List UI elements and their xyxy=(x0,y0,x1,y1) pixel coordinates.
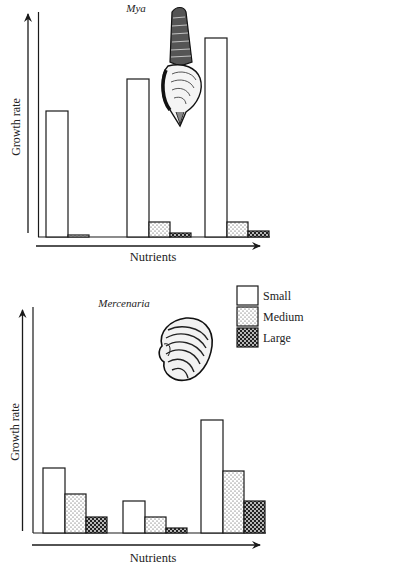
legend-label-small: Small xyxy=(263,289,292,303)
legend-item-large: Large xyxy=(237,328,291,347)
bar-large xyxy=(166,528,187,533)
bar-small xyxy=(201,420,223,533)
legend-swatch-medium xyxy=(237,307,258,326)
legend-item-medium: Medium xyxy=(237,307,304,326)
bar-large xyxy=(248,231,269,237)
legend-label-medium: Medium xyxy=(263,310,304,324)
legend: Small Medium Large xyxy=(237,286,304,347)
bar-small xyxy=(46,111,68,237)
bar-medium xyxy=(65,494,86,533)
bar-large xyxy=(170,233,191,237)
bar-medium xyxy=(223,471,244,533)
mercenaria-clam-illustration xyxy=(159,318,212,380)
y-axis-label: Growth rate xyxy=(8,403,22,461)
bar-medium xyxy=(145,517,166,533)
legend-label-large: Large xyxy=(263,331,291,345)
bar-medium xyxy=(68,235,89,237)
mya-clam-illustration xyxy=(162,8,201,127)
bars-mercenaria xyxy=(43,420,265,533)
species-label-mya: Mya xyxy=(125,2,146,14)
legend-swatch-small xyxy=(237,286,258,305)
bar-large xyxy=(244,501,265,533)
bar-small xyxy=(123,501,145,533)
x-axis-label: Nutrients xyxy=(130,551,177,565)
y-axis-label: Growth rate xyxy=(9,98,23,156)
bar-medium xyxy=(149,222,170,237)
legend-item-small: Small xyxy=(237,286,292,305)
bar-small xyxy=(205,38,227,237)
bar-small xyxy=(127,79,149,237)
mya-chart: Growth rate Nutrients Mya xyxy=(9,2,270,264)
bar-large xyxy=(86,517,107,533)
figure-canvas: Growth rate Nutrients Mya Growth rate Nu… xyxy=(0,0,420,568)
legend-swatch-large xyxy=(237,328,258,347)
bar-small xyxy=(43,468,65,533)
x-axis-label: Nutrients xyxy=(130,250,177,264)
bars-mya xyxy=(46,38,269,237)
species-label-mercenaria: Mercenaria xyxy=(97,297,150,309)
mercenaria-chart: Growth rate Nutrients Mercenaria Small M… xyxy=(8,286,304,565)
bar-medium xyxy=(227,222,248,237)
